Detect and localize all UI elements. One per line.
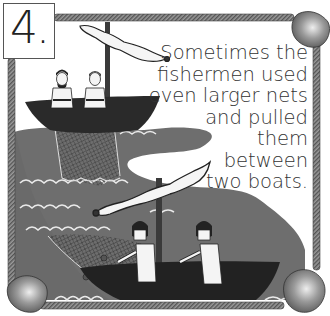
- caption-line: and pulled: [108, 107, 308, 129]
- caption-line: even larger nets: [108, 85, 308, 107]
- page-number: 4.: [10, 2, 48, 53]
- caption-line: fishermen used: [108, 64, 308, 86]
- caption-line: two boats.: [108, 171, 308, 193]
- story-page: 4. Sometimes the fishermen used even lar…: [0, 0, 330, 316]
- caption-line: Sometimes the: [108, 42, 308, 64]
- second-boat: [80, 261, 280, 300]
- caption-line: them: [108, 128, 308, 150]
- caption-text: Sometimes the fishermen used even larger…: [108, 42, 308, 193]
- page-number-box: 4.: [3, 3, 55, 59]
- caption-line: between: [108, 150, 308, 172]
